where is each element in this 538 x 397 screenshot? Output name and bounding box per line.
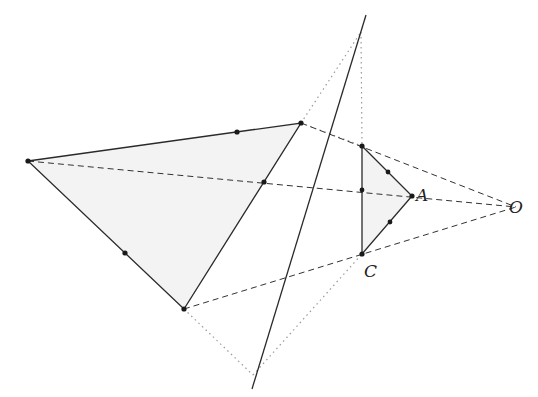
label-a: A [414,185,428,205]
diagram-canvas: A C O [0,0,538,397]
large-triangle-fill [28,123,301,309]
label-o: O [509,197,523,217]
small-triangle-fill [362,146,412,254]
axis-line [252,15,366,389]
label-c: C [364,261,377,281]
